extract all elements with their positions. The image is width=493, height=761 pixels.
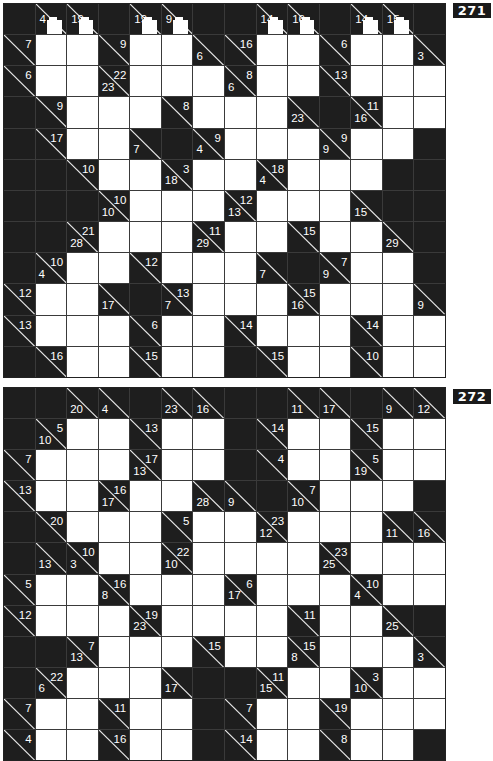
entry-cell[interactable] <box>383 450 414 480</box>
entry-cell[interactable] <box>383 129 414 159</box>
entry-cell[interactable] <box>99 97 130 127</box>
entry-cell[interactable] <box>67 129 98 159</box>
entry-cell[interactable] <box>288 129 319 159</box>
entry-cell[interactable] <box>351 284 382 314</box>
entry-cell[interactable] <box>130 160 161 190</box>
entry-cell[interactable] <box>320 668 351 698</box>
entry-cell[interactable] <box>225 97 256 127</box>
entry-cell[interactable] <box>351 606 382 636</box>
entry-cell[interactable] <box>320 450 351 480</box>
entry-cell[interactable] <box>288 668 319 698</box>
entry-cell[interactable] <box>414 419 445 449</box>
entry-cell[interactable] <box>257 316 288 346</box>
entry-cell[interactable] <box>193 606 224 636</box>
entry-cell[interactable] <box>130 699 161 729</box>
entry-cell[interactable] <box>257 730 288 760</box>
entry-cell[interactable] <box>225 512 256 542</box>
entry-cell[interactable] <box>130 575 161 605</box>
entry-cell[interactable] <box>36 316 67 346</box>
entry-cell[interactable] <box>225 606 256 636</box>
entry-cell[interactable] <box>99 419 130 449</box>
entry-cell[interactable] <box>99 450 130 480</box>
entry-cell[interactable] <box>67 66 98 96</box>
entry-cell[interactable] <box>288 35 319 65</box>
entry-cell[interactable] <box>383 253 414 283</box>
entry-cell[interactable] <box>288 160 319 190</box>
entry-cell[interactable] <box>257 129 288 159</box>
entry-cell[interactable] <box>162 66 193 96</box>
entry-cell[interactable] <box>320 284 351 314</box>
entry-cell[interactable] <box>257 284 288 314</box>
entry-cell[interactable] <box>130 35 161 65</box>
entry-cell[interactable] <box>383 730 414 760</box>
entry-cell[interactable] <box>288 316 319 346</box>
entry-cell[interactable] <box>225 637 256 667</box>
entry-cell[interactable] <box>351 222 382 252</box>
entry-cell[interactable] <box>257 35 288 65</box>
entry-cell[interactable] <box>288 191 319 221</box>
entry-cell[interactable] <box>36 730 67 760</box>
entry-cell[interactable] <box>257 66 288 96</box>
entry-cell[interactable] <box>383 481 414 511</box>
entry-cell[interactable] <box>351 637 382 667</box>
entry-cell[interactable] <box>36 35 67 65</box>
entry-cell[interactable] <box>414 699 445 729</box>
entry-cell[interactable] <box>193 419 224 449</box>
entry-cell[interactable] <box>320 419 351 449</box>
entry-cell[interactable] <box>130 481 161 511</box>
entry-cell[interactable] <box>257 222 288 252</box>
entry-cell[interactable] <box>225 160 256 190</box>
entry-cell[interactable] <box>288 543 319 573</box>
entry-cell[interactable] <box>130 66 161 96</box>
entry-cell[interactable] <box>257 97 288 127</box>
entry-cell[interactable] <box>67 284 98 314</box>
entry-cell[interactable] <box>67 575 98 605</box>
entry-cell[interactable] <box>193 66 224 96</box>
entry-cell[interactable] <box>162 730 193 760</box>
entry-cell[interactable] <box>193 97 224 127</box>
entry-cell[interactable] <box>320 191 351 221</box>
entry-cell[interactable] <box>67 450 98 480</box>
entry-cell[interactable] <box>320 637 351 667</box>
entry-cell[interactable] <box>36 284 67 314</box>
entry-cell[interactable] <box>162 575 193 605</box>
entry-cell[interactable] <box>383 637 414 667</box>
entry-cell[interactable] <box>130 97 161 127</box>
entry-cell[interactable] <box>99 347 130 377</box>
entry-cell[interactable] <box>320 222 351 252</box>
entry-cell[interactable] <box>193 512 224 542</box>
entry-cell[interactable] <box>67 606 98 636</box>
entry-cell[interactable] <box>162 699 193 729</box>
entry-cell[interactable] <box>383 575 414 605</box>
entry-cell[interactable] <box>257 191 288 221</box>
entry-cell[interactable] <box>288 419 319 449</box>
entry-cell[interactable] <box>383 543 414 573</box>
entry-cell[interactable] <box>414 316 445 346</box>
entry-cell[interactable] <box>130 668 161 698</box>
entry-cell[interactable] <box>288 450 319 480</box>
entry-cell[interactable] <box>383 419 414 449</box>
entry-cell[interactable] <box>320 575 351 605</box>
entry-cell[interactable] <box>162 481 193 511</box>
entry-cell[interactable] <box>162 637 193 667</box>
entry-cell[interactable] <box>383 699 414 729</box>
entry-cell[interactable] <box>99 637 130 667</box>
entry-cell[interactable] <box>67 35 98 65</box>
entry-cell[interactable] <box>130 730 161 760</box>
entry-cell[interactable] <box>225 222 256 252</box>
entry-cell[interactable] <box>320 160 351 190</box>
entry-cell[interactable] <box>162 606 193 636</box>
entry-cell[interactable] <box>320 512 351 542</box>
entry-cell[interactable] <box>383 316 414 346</box>
entry-cell[interactable] <box>36 606 67 636</box>
entry-cell[interactable] <box>193 191 224 221</box>
entry-cell[interactable] <box>162 347 193 377</box>
entry-cell[interactable] <box>383 284 414 314</box>
entry-cell[interactable] <box>67 253 98 283</box>
entry-cell[interactable] <box>130 543 161 573</box>
entry-cell[interactable] <box>130 191 161 221</box>
entry-cell[interactable] <box>99 222 130 252</box>
entry-cell[interactable] <box>162 316 193 346</box>
entry-cell[interactable] <box>351 543 382 573</box>
entry-cell[interactable] <box>351 129 382 159</box>
